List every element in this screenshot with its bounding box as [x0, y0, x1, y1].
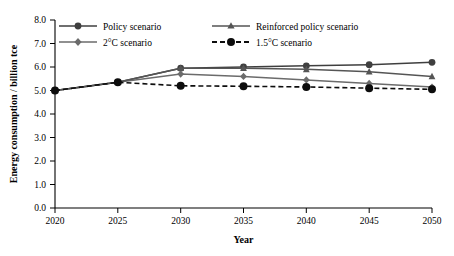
series-point-policy-scenario-2050 — [429, 59, 436, 66]
legend-item-2c-scenario[interactable]: 2°C scenario — [59, 38, 152, 48]
y-tick-label-3: 3.0 — [34, 133, 46, 143]
x-axis-ticks — [55, 208, 432, 213]
series-point-1-5-c-scenario-2045 — [365, 84, 373, 92]
y-tick-label-5: 5.0 — [34, 86, 46, 96]
chart-figure: Energy consumption / billion tce 8.0 7.0… — [0, 0, 454, 256]
legend-item-1-5c-scenario[interactable]: 1.5°C scenario — [212, 38, 312, 48]
legend-item-reinforced-policy-scenario[interactable]: Reinforced policy scenario — [212, 22, 359, 32]
series-point-1-5-c-scenario-2030 — [177, 82, 185, 90]
x-axis-title: Year — [234, 234, 255, 245]
series-point-1-5-c-scenario-2050 — [428, 85, 436, 93]
legend-marker-circle-1-5c — [227, 38, 235, 46]
x-tick-label-2020: 2020 — [46, 216, 65, 226]
y-tick-label-2: 2.0 — [34, 156, 46, 166]
series-point-policy-scenario-2045 — [366, 61, 373, 68]
series-point-2-c-scenario-2035 — [240, 73, 247, 80]
y-axis-title: Energy consumption / billion tce — [8, 44, 19, 183]
y-tick-label-8: 8.0 — [34, 15, 46, 25]
y-tick-label-6: 6.0 — [34, 62, 46, 72]
legend-label-2c-scenario: 2°C scenario — [103, 38, 152, 48]
series-point-1-5-c-scenario-2025 — [114, 78, 122, 86]
legend-marker-diamond-2c — [74, 38, 81, 46]
x-tick-label-2045: 2045 — [360, 216, 379, 226]
legend-label-reinforced-policy-scenario: Reinforced policy scenario — [256, 22, 359, 32]
y-tick-label-7: 7.0 — [34, 39, 46, 49]
legend-item-policy-scenario[interactable]: Policy scenario — [59, 22, 162, 32]
series-point-2-c-scenario-2030 — [177, 70, 184, 77]
x-tick-label-2035: 2035 — [234, 216, 253, 226]
line-chart: Energy consumption / billion tce 8.0 7.0… — [0, 0, 454, 256]
series-point-2-c-scenario-2040 — [303, 76, 310, 83]
x-tick-label-2050: 2050 — [423, 216, 442, 226]
y-tick-label-0: 0.0 — [34, 203, 46, 213]
y-tick-label-1: 1.0 — [34, 180, 46, 190]
series-point-1-5-c-scenario-2040 — [302, 83, 310, 91]
legend-marker-circle-policy — [75, 23, 82, 30]
chart-legend: Policy scenario Reinforced policy scenar… — [59, 22, 359, 48]
x-tick-label-2040: 2040 — [297, 216, 316, 226]
y-tick-label-4: 4.0 — [34, 109, 46, 119]
legend-label-1-5c-scenario: 1.5°C scenario — [256, 38, 312, 48]
series-point-1-5-c-scenario-2020 — [51, 87, 59, 95]
series-layer — [51, 59, 436, 95]
x-tick-label-2025: 2025 — [108, 216, 127, 226]
x-tick-label-2030: 2030 — [171, 216, 190, 226]
series-point-1-5-c-scenario-2035 — [240, 82, 248, 90]
legend-label-policy-scenario: Policy scenario — [103, 22, 162, 32]
series-1-5-c-scenario — [51, 78, 436, 94]
y-axis-ticks — [50, 20, 55, 208]
